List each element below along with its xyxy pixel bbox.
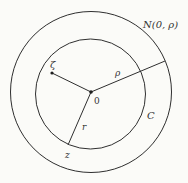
zeta-label: ζ	[50, 59, 56, 70]
z-label: z	[64, 150, 70, 160]
radius-rho-line	[91, 61, 165, 92]
r-label: r	[82, 122, 87, 132]
center-label: 0	[94, 96, 100, 106]
zeta-point	[50, 71, 53, 74]
disk-diagram: N(0, ρ) C 0 ζ z ρ r	[0, 0, 188, 183]
zeta-line	[52, 73, 91, 92]
rho-label: ρ	[114, 68, 121, 78]
inner-circle-label: C	[147, 110, 155, 121]
radius-r-line	[68, 92, 91, 145]
outer-circle-label: N(0, ρ)	[142, 19, 178, 30]
center-point	[89, 90, 93, 94]
